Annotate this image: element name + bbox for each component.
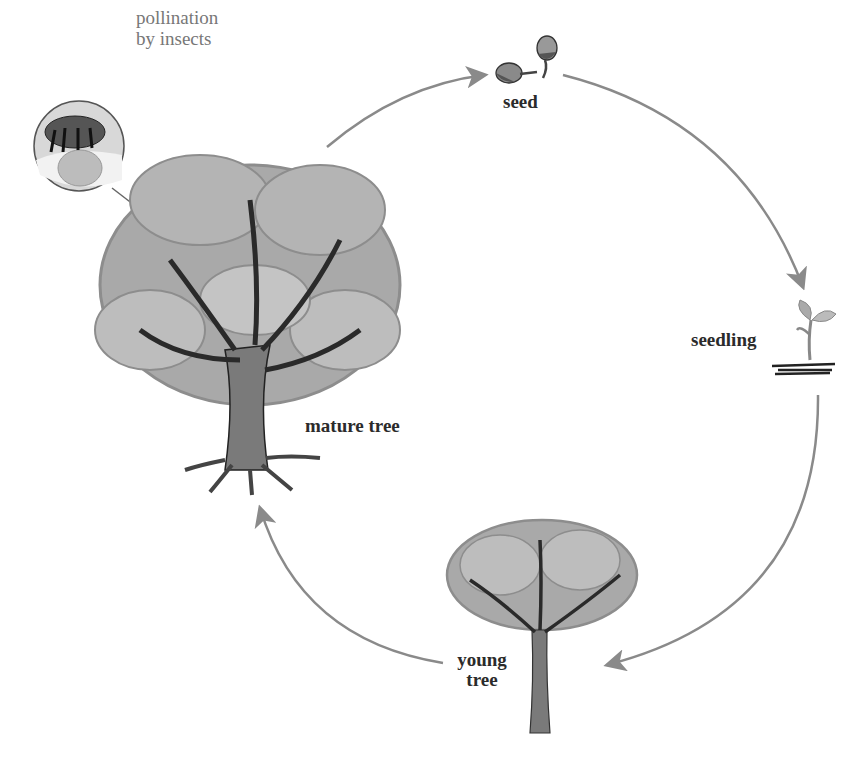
stage-label-young-tree: young tree xyxy=(454,650,510,690)
arrow-mature-to-seed xyxy=(327,75,485,147)
pollination-note: pollination by insects xyxy=(136,7,218,49)
young-tree-icon xyxy=(447,520,637,733)
stage-label-seed: seed xyxy=(503,92,538,112)
arrow-seed-to-seedling xyxy=(563,75,803,287)
arrow-young-to-mature xyxy=(260,508,443,663)
pollination-note-line2: by insects xyxy=(136,28,218,49)
young-tree-label-line1: young xyxy=(454,650,510,670)
pollination-note-line1: pollination xyxy=(136,7,218,28)
seedling-icon xyxy=(772,300,836,374)
acorn-seed-icon xyxy=(496,36,557,83)
young-tree-label-line2: tree xyxy=(454,670,510,690)
mature-tree-icon xyxy=(95,155,400,495)
arrow-seedling-to-young xyxy=(607,395,818,665)
stage-label-seedling: seedling xyxy=(691,330,756,350)
stage-label-mature-tree: mature tree xyxy=(305,416,400,436)
